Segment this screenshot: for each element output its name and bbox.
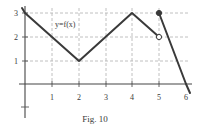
x-tick-label: 1 bbox=[50, 93, 54, 102]
function-label: y=f(x) bbox=[55, 20, 76, 29]
x-tick-label: 3 bbox=[104, 93, 108, 102]
function-graph: 1 2 3 4 5 6 1 2 3 y=f(x) Fig. 10 bbox=[0, 0, 198, 136]
filled-point-marker bbox=[156, 10, 161, 15]
x-tick-label: 2 bbox=[77, 93, 81, 102]
y-tick-label: 3 bbox=[14, 9, 18, 18]
x-tick-label: 5 bbox=[157, 93, 161, 102]
figure-caption: Fig. 10 bbox=[82, 114, 108, 124]
y-tick-label: 2 bbox=[14, 33, 18, 42]
y-tick-label: 1 bbox=[14, 57, 18, 66]
figure: 1 2 3 4 5 6 1 2 3 y=f(x) Fig. 10 bbox=[0, 0, 198, 136]
open-point-marker bbox=[156, 34, 161, 39]
x-tick-label: 6 bbox=[184, 93, 188, 102]
curve-piece-2 bbox=[159, 13, 190, 93]
grid-lines bbox=[25, 8, 190, 84]
curve-piece-1 bbox=[22, 8, 158, 61]
x-tick-label: 4 bbox=[130, 93, 134, 102]
